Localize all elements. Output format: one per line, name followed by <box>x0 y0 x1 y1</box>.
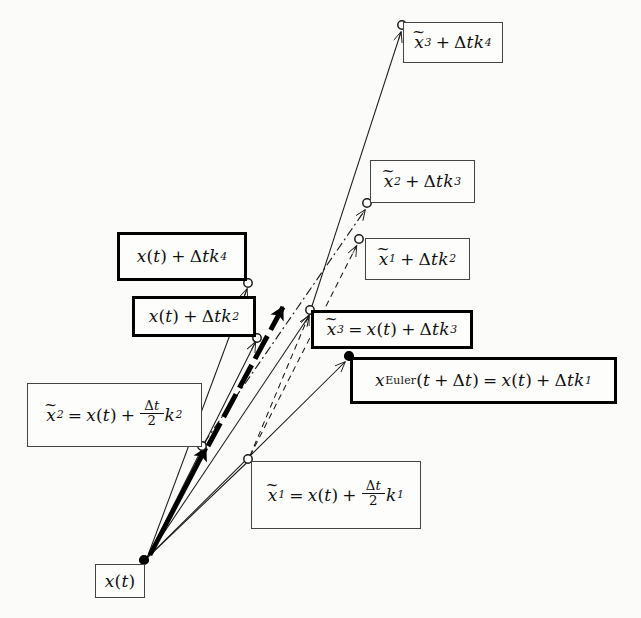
label-euler-step: xEuler(t+Δt)=x(t)+Δtk1 <box>350 357 617 404</box>
label-x2-tilde-plus-dtk3: ~x2+Δtk3 <box>370 160 475 203</box>
label-x-of-t-text: x(t) <box>105 573 136 590</box>
label-x1-tilde-plus-dtk2-text: ~x1+Δtk2 <box>379 251 457 268</box>
label-xt-plus-dtk4: x(t)+Δtk4 <box>117 232 247 281</box>
label-x2-tilde-def-text: ~x2=x(t)+Δt2k2 <box>46 400 182 430</box>
label-x1-tilde-def: ~x1=x(t)+Δt2k1 <box>251 461 421 529</box>
label-x1-tilde-def-text: ~x1=x(t)+Δt2k1 <box>268 480 404 510</box>
label-xt-plus-dtk2-text: x(t)+Δtk2 <box>149 308 240 325</box>
edge-rk4-lower-bold <box>150 448 206 555</box>
rk4-diagram-figure: ~x3+Δtk4 ~x2+Δtk3 ~x1+Δtk2 x(t)+Δtk4 x(t… <box>0 0 641 618</box>
label-x3-tilde-def-text: ~x3=x(t)+Δtk3 <box>327 321 458 338</box>
label-x2-tilde-plus-dtk3-text: ~x2+Δtk3 <box>384 173 462 190</box>
label-x3-tilde-plus-dtk4: ~x3+Δtk4 <box>403 22 503 63</box>
node-x1-plus-dtk2-point <box>355 235 363 243</box>
label-xt-plus-dtk2: x(t)+Δtk2 <box>132 296 256 337</box>
dashed-edges <box>250 246 357 456</box>
label-xt-plus-dtk4-text: x(t)+Δtk4 <box>137 248 228 265</box>
label-x3-tilde-plus-dtk4-text: ~x3+Δtk4 <box>414 34 492 51</box>
edge-x1-to-k2-dashed <box>250 246 357 456</box>
label-x3-tilde-def: ~x3=x(t)+Δtk3 <box>311 310 473 349</box>
label-x1-tilde-plus-dtk2: ~x1+Δtk2 <box>365 238 470 280</box>
label-x-of-t: x(t) <box>95 564 145 598</box>
label-x2-tilde-def: ~x2=x(t)+Δt2k2 <box>27 383 202 447</box>
edge-k1-half-ray <box>147 462 248 558</box>
label-euler-step-text: xEuler(t+Δt)=x(t)+Δtk1 <box>375 372 592 389</box>
